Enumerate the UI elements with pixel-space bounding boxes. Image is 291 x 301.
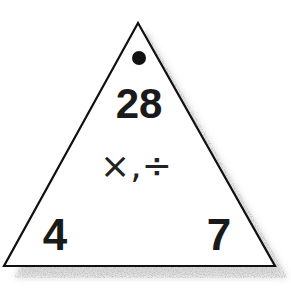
top-dot-marker: [132, 51, 146, 65]
bottom-right-value: 7: [207, 210, 231, 259]
fact-triangle-diagram: 28 ×,÷ 4 7: [0, 0, 291, 301]
operation-label: ×,÷: [100, 145, 172, 186]
bottom-left-value: 4: [43, 210, 68, 259]
top-value: 28: [116, 80, 163, 127]
